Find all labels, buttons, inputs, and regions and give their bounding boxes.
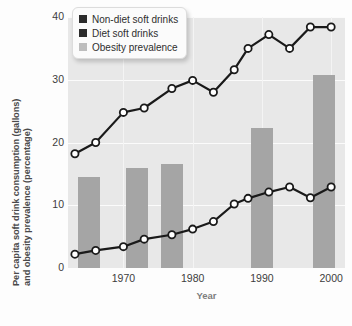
marker-point (210, 89, 217, 96)
legend-label: Diet soft drinks (92, 28, 158, 39)
chart-legend: Non-diet soft drinksDiet soft drinksObes… (72, 7, 187, 59)
y-tick-label-10: 10 (40, 198, 64, 210)
legend-swatch-icon (79, 15, 87, 23)
y-tick-label-40: 40 (40, 10, 64, 22)
y-tick-label-30: 30 (40, 73, 64, 85)
legend-swatch-icon (79, 43, 87, 51)
marker-point (286, 183, 293, 190)
y-axis-title: Per capita soft drink consumption (gallo… (0, 0, 34, 290)
x-tick-label-1980: 1980 (173, 272, 213, 284)
y-axis-title-line2: and obesity prevalence (percentage) (22, 128, 34, 286)
marker-point (307, 194, 314, 201)
x-axis-tick-labels: 1970198019902000 (68, 272, 345, 288)
marker-point (244, 195, 251, 202)
marker-point (168, 231, 175, 238)
legend-item-2: Obesity prevalence (79, 40, 178, 54)
marker-point (92, 247, 99, 254)
marker-point (189, 225, 196, 232)
marker-point (328, 23, 335, 30)
y-axis-tick-labels: 010203040 (38, 0, 64, 290)
legend-item-1: Diet soft drinks (79, 26, 178, 40)
marker-point (120, 243, 127, 250)
marker-point (189, 77, 196, 84)
chart-figure: Per capita soft drink consumption (gallo… (0, 0, 352, 326)
marker-point (141, 104, 148, 111)
legend-item-0: Non-diet soft drinks (79, 12, 178, 26)
marker-point (210, 218, 217, 225)
marker-point (168, 85, 175, 92)
marker-point (141, 236, 148, 243)
marker-point (307, 23, 314, 30)
marker-point (92, 139, 99, 146)
marker-point (120, 109, 127, 116)
marker-point (71, 251, 78, 258)
x-tick-label-1970: 1970 (103, 272, 143, 284)
marker-point (286, 45, 293, 52)
legend-label: Non-diet soft drinks (92, 14, 178, 25)
marker-point (231, 200, 238, 207)
x-tick-label-1990: 1990 (242, 272, 282, 284)
x-tick-label-2000: 2000 (311, 272, 351, 284)
marker-point (244, 45, 251, 52)
legend-swatch-icon (79, 29, 87, 37)
marker-point (328, 183, 335, 190)
marker-point (265, 31, 272, 38)
marker-point (71, 150, 78, 157)
line-diet-soft-drinks (75, 187, 331, 254)
marker-point (231, 66, 238, 73)
y-axis-title-line1: Per capita soft drink consumption (gallo… (11, 99, 23, 286)
x-axis-title: Year (68, 290, 345, 301)
y-tick-label-20: 20 (40, 136, 64, 148)
marker-point (265, 188, 272, 195)
y-tick-label-0: 0 (40, 261, 64, 273)
legend-label: Obesity prevalence (92, 42, 178, 53)
